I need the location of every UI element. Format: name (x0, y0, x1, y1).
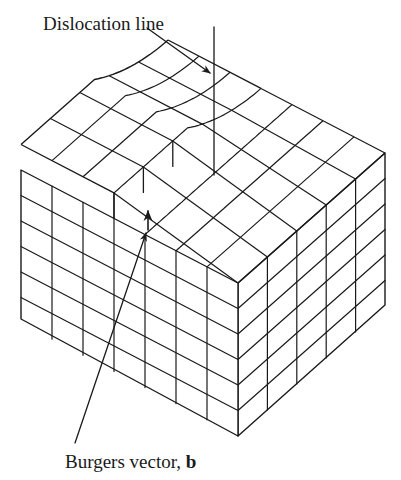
top-surface-line (261, 88, 385, 153)
dislocation-line-label: Dislocation line (43, 14, 164, 33)
burgers-vector-label-text: Burgers vector, (65, 451, 186, 472)
dislocation-step (114, 141, 173, 219)
screw-dislocation-diagram (0, 0, 401, 480)
top-surface-line (80, 93, 173, 141)
top-surface-line (145, 105, 292, 235)
top-surface-line (202, 124, 326, 205)
top-surface-line (232, 110, 356, 179)
top-surface-line (83, 72, 230, 177)
dislocation-line-pointer-arrow (147, 28, 210, 73)
top-surface-line (52, 56, 199, 161)
top-surface-line (109, 76, 202, 124)
crystal-left-face (21, 170, 238, 436)
burgers-vector-symbol: b (186, 451, 197, 472)
top-surface-line (114, 88, 261, 192)
top-surface-line (21, 40, 168, 145)
top-surface-line (50, 119, 143, 167)
burgers-vector-label: Burgers vector, b (65, 452, 196, 471)
